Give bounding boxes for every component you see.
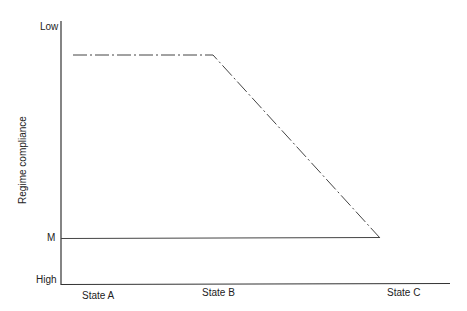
x-tick-state-b: State B (202, 287, 235, 298)
x-tick-state-c: State C (387, 287, 420, 298)
y-axis-label: Regime compliance (17, 116, 28, 204)
m-reference-line (61, 238, 380, 239)
y-tick-m: M (47, 232, 55, 243)
diagram-canvas (0, 0, 467, 311)
x-tick-state-a: State A (82, 290, 114, 301)
y-tick-low: Low (40, 21, 58, 32)
compliance-trajectory-line (73, 55, 380, 238)
y-tick-high: High (36, 274, 57, 285)
x-axis (61, 284, 450, 285)
